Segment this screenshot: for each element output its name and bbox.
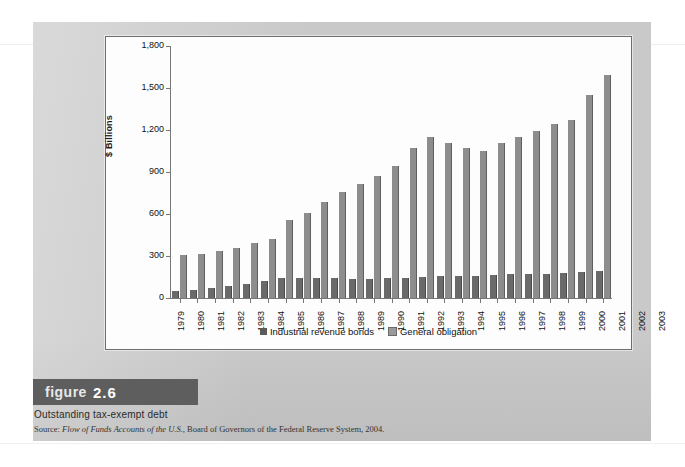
bar-group <box>365 46 383 298</box>
x-tick-mark <box>374 298 375 303</box>
bar-group <box>294 46 312 298</box>
bar-irb <box>278 278 285 298</box>
bar-go <box>498 143 505 298</box>
x-tick-mark <box>321 298 322 303</box>
screenshot-root: can be purchased by investors the tax-ex… <box>0 0 685 467</box>
x-tick-label: 1998 <box>552 304 572 326</box>
bar-go <box>269 239 276 299</box>
legend-swatch-irb <box>260 328 267 335</box>
x-tick-label: 2001 <box>612 304 632 326</box>
bar-go <box>304 213 311 298</box>
bar-irb <box>349 279 356 298</box>
legend-item: Industrial revenue bonds <box>260 326 374 337</box>
bar-go <box>568 120 575 299</box>
bar-go <box>216 251 223 298</box>
bar-group <box>400 46 418 298</box>
bar-irb <box>507 274 514 298</box>
bar-irb <box>525 274 532 299</box>
figure-source: Source: Flow of Funds Accounts of the U.… <box>34 424 384 434</box>
x-tick-mark <box>462 298 463 303</box>
bar-irb <box>437 276 444 298</box>
legend-label: General obligation <box>400 326 477 337</box>
bar-go <box>427 137 434 298</box>
x-tick-label: 2000 <box>592 304 612 326</box>
bar-group <box>242 46 260 298</box>
bar-group <box>383 46 401 298</box>
figure-number: 2.6 <box>93 384 117 401</box>
x-tick-mark <box>444 298 445 303</box>
bar-group <box>541 46 559 298</box>
bar-group <box>453 46 471 298</box>
bar-group <box>330 46 348 298</box>
x-tick-label: 1999 <box>572 304 592 326</box>
x-tick-label: 1996 <box>512 304 532 326</box>
legend-swatch-go <box>388 327 397 336</box>
bar-irb <box>384 278 391 298</box>
bar-go <box>339 192 346 298</box>
x-tick-mark <box>409 298 410 303</box>
y-tick-label: 1,800 <box>112 41 164 50</box>
bar-go <box>198 254 205 298</box>
bar-group <box>171 46 189 298</box>
bar-irb <box>296 278 303 298</box>
legend-label: Industrial revenue bonds <box>270 326 374 337</box>
x-tick-mark <box>268 298 269 303</box>
bar-irb <box>543 274 550 299</box>
x-tick-mark <box>233 298 234 303</box>
x-tick-mark <box>603 298 604 303</box>
bar-go <box>533 131 540 298</box>
bar-group <box>206 46 224 298</box>
bar-irb <box>172 291 179 298</box>
x-tick-label: 1979 <box>171 304 191 326</box>
x-tick-label: 1982 <box>231 304 251 326</box>
y-tick-label: 1,500 <box>112 83 164 92</box>
chart-panel: $ Billions 03006009001,2001,5001,800 197… <box>105 36 632 350</box>
y-tick-label: 1,200 <box>112 125 164 134</box>
x-tick-label: 1986 <box>311 304 331 326</box>
plot-area: 03006009001,2001,5001,800 <box>170 46 612 298</box>
x-tick-label: 1997 <box>532 304 552 326</box>
bar-go <box>233 248 240 298</box>
x-tick-mark <box>356 298 357 303</box>
x-tick-mark <box>250 298 251 303</box>
bar-group <box>594 46 612 298</box>
bar-irb <box>402 278 409 298</box>
x-tick-mark <box>497 298 498 303</box>
y-tick-label: 300 <box>112 251 164 260</box>
bar-irb <box>472 276 479 298</box>
x-tick-label: 1988 <box>351 304 371 326</box>
bar-go <box>480 151 487 298</box>
figure-tag-word: figure <box>45 384 87 400</box>
bar-go <box>286 220 293 298</box>
source-rest: , Board of Governors of the Federal Rese… <box>183 424 385 434</box>
bar-go <box>604 75 611 298</box>
x-tick-label: 1990 <box>391 304 411 326</box>
bar-go <box>586 95 593 298</box>
bar-go <box>392 166 399 298</box>
bar-go <box>374 176 381 298</box>
bar-group <box>189 46 207 298</box>
y-axis-label: $ Billions <box>104 115 114 157</box>
y-tick-label: 600 <box>112 209 164 218</box>
x-tick-label: 1984 <box>271 304 291 326</box>
bar-group <box>277 46 295 298</box>
source-prefix: Source: <box>34 424 62 434</box>
x-tick-mark <box>568 298 569 303</box>
bar-group <box>506 46 524 298</box>
bar-irb <box>578 272 585 298</box>
bar-group <box>559 46 577 298</box>
bar-irb <box>455 276 462 298</box>
x-tick-label: 2003 <box>652 304 672 326</box>
scan-seam-line-bottom <box>0 443 685 444</box>
bar-go <box>180 255 187 298</box>
bar-group <box>471 46 489 298</box>
x-tick-mark <box>392 298 393 303</box>
bar-group <box>347 46 365 298</box>
x-tick-label: 1987 <box>331 304 351 326</box>
bar-go <box>551 124 558 298</box>
x-tick-label: 1983 <box>251 304 271 326</box>
bar-group <box>418 46 436 298</box>
x-tick-mark <box>427 298 428 303</box>
x-tick-mark <box>550 298 551 303</box>
bar-irb <box>225 286 232 298</box>
